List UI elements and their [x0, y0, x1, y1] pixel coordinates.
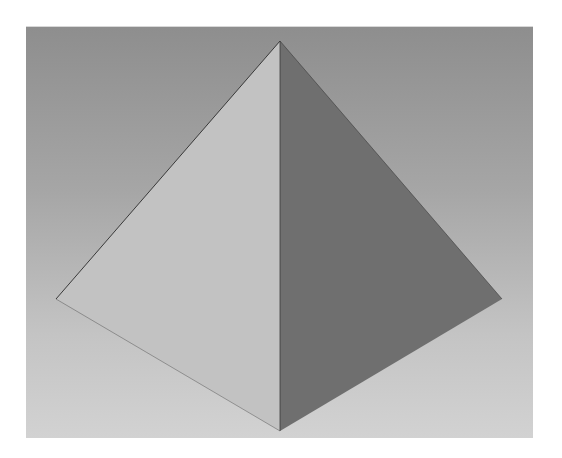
pyramid-right-face — [280, 41, 502, 431]
render-viewport — [26, 26, 533, 438]
pyramid-scene — [26, 27, 533, 438]
pyramid-left-face — [56, 41, 280, 431]
